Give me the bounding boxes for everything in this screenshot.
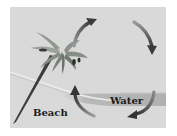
arrow-curve-right-icon <box>134 22 157 55</box>
beach-label: Beach <box>33 108 68 118</box>
diagram-graphics <box>0 0 177 136</box>
sea-breeze-diagram: Beach Water <box>0 0 177 136</box>
water-label: Water <box>110 96 143 106</box>
palm-tree-icon <box>30 32 88 74</box>
